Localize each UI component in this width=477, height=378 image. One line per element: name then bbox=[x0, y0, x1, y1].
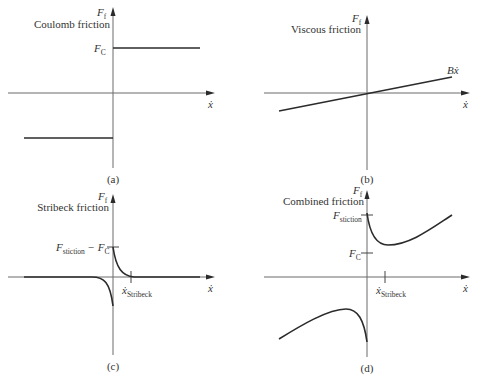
friction-models-figure: Ff Coulomb friction ẋ FC (a) Ff Viscous … bbox=[0, 0, 477, 378]
viscous-annotation: Bẋ bbox=[447, 64, 459, 76]
panel-b: Ff Viscous friction ẋ Bẋ (b) bbox=[264, 12, 470, 186]
stribeck-negative-branch bbox=[24, 277, 113, 306]
stribeck-velocity-label: ẋStribeck bbox=[375, 284, 406, 299]
y-axis-arrow-icon bbox=[365, 190, 370, 199]
x-axis-label: ẋ bbox=[207, 98, 213, 110]
stiction-minus-fc-label: Fstiction − FC bbox=[55, 241, 110, 256]
panel-title: Coulomb friction bbox=[34, 18, 111, 30]
panel-a: Ff Coulomb friction ẋ FC (a) bbox=[8, 6, 215, 186]
y-axis-arrow-icon bbox=[111, 7, 116, 16]
panel-title: Combined friction bbox=[283, 195, 364, 207]
panel-label: (d) bbox=[361, 362, 374, 375]
y-axis-arrow-icon bbox=[111, 194, 116, 203]
x-axis-label: ẋ bbox=[462, 98, 468, 110]
panel-label: (a) bbox=[107, 173, 120, 186]
x-axis-arrow-icon bbox=[461, 275, 470, 280]
panel-label: (b) bbox=[361, 173, 374, 186]
fc-tick-label: FC bbox=[93, 42, 106, 57]
x-axis-label: ẋ bbox=[207, 282, 213, 294]
panel-label: (c) bbox=[107, 360, 120, 373]
stribeck-velocity-label: ẋStribeck bbox=[121, 284, 152, 299]
viscous-line bbox=[279, 77, 452, 111]
x-axis-arrow-icon bbox=[461, 91, 470, 96]
x-axis-label: ẋ bbox=[462, 282, 468, 294]
combined-negative-branch bbox=[279, 309, 367, 342]
fc-label: FC bbox=[348, 247, 361, 262]
panel-c: Ff Stribeck friction ẋ Fstiction − FC ẋS… bbox=[8, 190, 215, 373]
combined-positive-branch bbox=[367, 213, 452, 245]
x-axis-arrow-icon bbox=[206, 91, 215, 96]
y-axis-arrow-icon bbox=[365, 15, 370, 24]
stiction-label: Fstiction bbox=[332, 209, 362, 224]
panel-d: Ff Combined friction ẋ Fstiction FC ẋStr… bbox=[264, 184, 470, 375]
panel-title: Stribeck friction bbox=[37, 201, 109, 213]
panel-title: Viscous friction bbox=[291, 23, 361, 35]
x-axis-arrow-icon bbox=[206, 275, 215, 280]
stribeck-positive-branch bbox=[113, 247, 200, 277]
